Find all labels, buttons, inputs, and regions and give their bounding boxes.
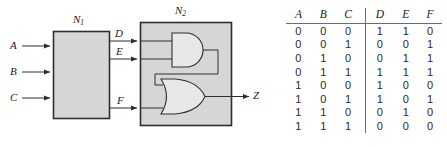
table-cell: 0 <box>286 65 311 79</box>
table-cell: 1 <box>418 51 442 65</box>
table-cell: 0 <box>418 119 442 133</box>
signal-label-d: D <box>115 28 123 39</box>
column-header-e: E <box>393 8 418 24</box>
table-cell: 1 <box>336 38 361 52</box>
table-row: 000110 <box>286 24 442 38</box>
table-cell: 1 <box>311 119 336 133</box>
table-cell: 0 <box>393 92 418 106</box>
table-cell: 0 <box>418 24 442 38</box>
table-cell: 0 <box>336 24 361 38</box>
table-cell: 1 <box>286 78 311 92</box>
table-cell: 0 <box>286 51 311 65</box>
output-label-z: Z <box>253 90 259 101</box>
block-n1-label: N1 <box>73 14 84 27</box>
column-header-a: A <box>286 8 311 24</box>
column-header-f: F <box>418 8 442 24</box>
input-label-a: A <box>10 40 17 51</box>
table-cell: 1 <box>366 24 393 38</box>
table-cell: 1 <box>286 119 311 133</box>
column-header-b: B <box>311 8 336 24</box>
truth-table: A B C D E F 0001100010010100110111111001… <box>286 8 442 133</box>
table-row: 011111 <box>286 65 442 79</box>
table-cell: 0 <box>311 38 336 52</box>
table-row: 111000 <box>286 119 442 133</box>
table-cell: 0 <box>311 92 336 106</box>
table-row: 101101 <box>286 92 442 106</box>
table-cell: 1 <box>393 51 418 65</box>
signal-label-e: E <box>116 46 123 57</box>
column-header-d: D <box>366 8 393 24</box>
table-cell: 1 <box>366 65 393 79</box>
table-cell: 1 <box>311 65 336 79</box>
truth-table-container: A B C D E F 0001100010010100110111111001… <box>286 8 446 144</box>
table-cell: 1 <box>336 119 361 133</box>
table-cell: 1 <box>336 65 361 79</box>
table-row: 010011 <box>286 51 442 65</box>
input-label-c: C <box>10 92 17 103</box>
table-cell: 0 <box>393 119 418 133</box>
table-cell: 0 <box>366 38 393 52</box>
table-cell: 1 <box>286 92 311 106</box>
table-cell: 0 <box>286 38 311 52</box>
and-gate <box>172 33 203 67</box>
table-cell: 0 <box>336 78 361 92</box>
table-cell: 0 <box>418 78 442 92</box>
table-cell: 0 <box>366 119 393 133</box>
table-cell: 0 <box>311 24 336 38</box>
table-cell: 0 <box>336 51 361 65</box>
input-label-b: B <box>10 66 17 77</box>
column-header-c: C <box>336 8 361 24</box>
table-cell: 0 <box>311 78 336 92</box>
table-cell: 1 <box>311 51 336 65</box>
block-n1 <box>54 32 110 119</box>
table-cell: 1 <box>418 92 442 106</box>
table-cell: 0 <box>286 24 311 38</box>
table-cell: 0 <box>366 106 393 120</box>
table-cell: 1 <box>336 92 361 106</box>
table-cell: 1 <box>311 106 336 120</box>
table-cell: 1 <box>393 106 418 120</box>
signal-label-f: F <box>117 95 124 106</box>
truth-table-header-row: A B C D E F <box>286 8 442 24</box>
block-n2-label: N2 <box>175 5 186 18</box>
table-cell: 0 <box>393 38 418 52</box>
table-cell: 1 <box>286 106 311 120</box>
table-row: 001001 <box>286 38 442 52</box>
truth-table-body: 0001100010010100110111111001001011011100… <box>286 24 442 133</box>
table-cell: 0 <box>418 106 442 120</box>
table-row: 110010 <box>286 106 442 120</box>
table-cell: 1 <box>366 78 393 92</box>
table-cell: 0 <box>393 78 418 92</box>
table-cell: 1 <box>393 24 418 38</box>
table-cell: 0 <box>336 106 361 120</box>
table-cell: 1 <box>418 38 442 52</box>
table-cell: 1 <box>418 65 442 79</box>
table-cell: 0 <box>366 51 393 65</box>
table-row: 100100 <box>286 78 442 92</box>
table-cell: 1 <box>366 92 393 106</box>
table-cell: 1 <box>393 65 418 79</box>
